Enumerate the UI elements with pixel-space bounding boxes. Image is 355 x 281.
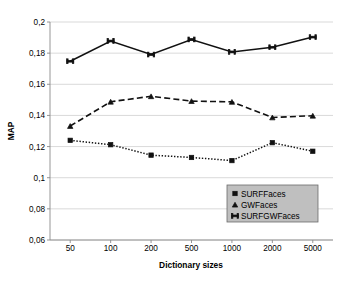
y-tick-label: 0,18 — [29, 49, 45, 58]
legend-item-surffaces[interactable]: SURFFaces — [233, 190, 286, 199]
y-tick-label: 0,06 — [29, 236, 45, 245]
x-axis-title: Dictionary sizes — [159, 260, 223, 270]
x-tick-labels: 50100200500100020005000 — [66, 240, 323, 253]
marker-cap-left — [67, 59, 69, 64]
marker-cap-right — [274, 45, 276, 50]
marker-cap-right — [315, 35, 317, 40]
y-tick-label: 0,2 — [34, 18, 46, 27]
y-tick-label: 0,1 — [34, 174, 46, 183]
marker-cap-right — [72, 59, 74, 64]
x-tick-label: 200 — [144, 244, 158, 253]
y-tick-label: 0,12 — [29, 143, 45, 152]
data-point-marker-square — [311, 149, 315, 153]
data-point-marker-square — [189, 155, 193, 159]
marker-cap-left — [309, 35, 311, 40]
x-tick-label: 100 — [104, 244, 118, 253]
marker-cap-left — [269, 45, 271, 50]
y-tick-label: 0,08 — [29, 205, 45, 214]
marker-cap-right — [234, 49, 236, 54]
x-tick-label: 5000 — [304, 244, 323, 253]
x-tick-label: 50 — [66, 244, 76, 253]
marker-cap-right — [194, 37, 196, 42]
marker-cap-left — [147, 52, 149, 57]
data-point-marker-square — [68, 138, 72, 142]
y-axis-title: MAP — [6, 121, 16, 140]
chart-canvas: 0,20,180,160,140,120,10,080,06 501002005… — [0, 0, 355, 281]
legend-item-surfgwfaces[interactable]: SURFGWFaces — [231, 212, 299, 221]
legend-item-label: SURFGWFaces — [241, 212, 300, 221]
data-point-marker-square — [230, 158, 234, 162]
y-tick-label: 0,16 — [29, 80, 45, 89]
marker-cap-left — [228, 49, 230, 54]
y-tick-labels: 0,20,180,160,140,120,10,080,06 — [29, 18, 50, 245]
x-tick-label: 1000 — [223, 244, 242, 253]
data-point-marker-square — [270, 140, 274, 144]
legend-item-label: SURFFaces — [241, 190, 286, 199]
x-tick-label: 2000 — [263, 244, 282, 253]
y-tick-label: 0,14 — [29, 111, 45, 120]
marker-cap-right — [237, 214, 239, 219]
marker-cap-left — [107, 39, 109, 44]
chart-container: 0,20,180,160,140,120,10,080,06 501002005… — [0, 0, 355, 281]
x-tick-label: 500 — [185, 244, 199, 253]
chart-legend[interactable]: SURFFacesGWFacesSURFGWFaces — [227, 185, 318, 222]
legend-item-label: GWFaces — [241, 201, 277, 210]
data-point-marker-square — [149, 153, 153, 157]
marker-cap-left — [231, 214, 233, 219]
marker-cap-left — [188, 37, 190, 42]
data-point-marker-square — [108, 143, 112, 147]
marker-cap-right — [153, 52, 155, 57]
marker-cap-right — [113, 39, 115, 44]
data-point-marker-square — [233, 191, 237, 195]
